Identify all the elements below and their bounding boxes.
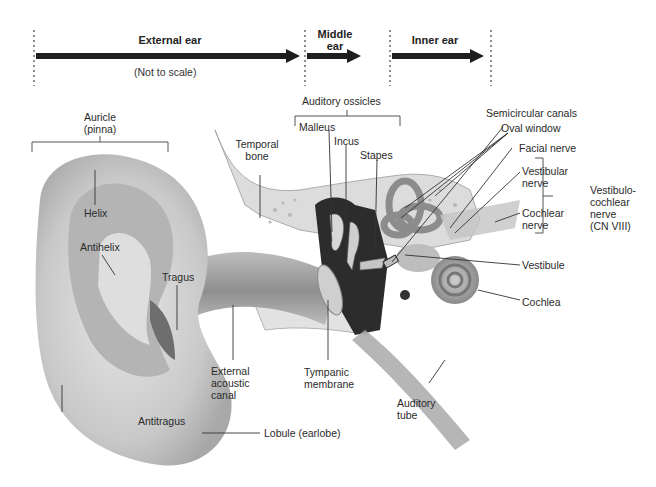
label-vcn-line4: (CN VIII)	[590, 220, 636, 232]
label-vestibular-line1: Vestibular	[522, 165, 568, 177]
label-cochlea: Cochlea	[522, 296, 561, 308]
label-tympanic-membrane: Tympanic membrane	[304, 366, 354, 390]
label-cochlear-nerve-line2: nerve	[522, 219, 564, 231]
label-vcn-line3: nerve	[590, 208, 636, 220]
label-eac-line1: External	[211, 365, 250, 377]
label-helix: Helix	[84, 207, 107, 219]
label-auditory-tube-line2: tube	[397, 409, 436, 421]
label-temporal-line1: Temporal	[232, 138, 282, 150]
scale-note: (Not to scale)	[134, 66, 196, 78]
label-stapes: Stapes	[360, 149, 393, 161]
label-antihelix: Antihelix	[80, 241, 120, 253]
label-antitragus: Antitragus	[138, 415, 185, 427]
region-middle-ear-line2: ear	[315, 40, 355, 53]
label-vcn-line1: Vestibulo-	[590, 184, 636, 196]
label-external-acoustic-canal: External acoustic canal	[211, 365, 250, 401]
label-temporal-bone: Temporal bone	[232, 138, 282, 162]
label-auricle-line2: (pinna)	[75, 123, 125, 135]
label-facial-nerve: Facial nerve	[519, 142, 576, 154]
label-auricle: Auricle (pinna)	[75, 111, 125, 135]
label-eac-line3: canal	[211, 389, 250, 401]
label-tragus: Tragus	[162, 271, 194, 283]
label-auditory-tube: Auditory tube	[397, 397, 436, 421]
label-vestibular-line2: nerve	[522, 177, 568, 189]
label-tympanic-line1: Tympanic	[304, 366, 354, 378]
label-temporal-line2: bone	[232, 150, 282, 162]
label-incus: Incus	[334, 135, 359, 147]
label-vestibulocochlear-nerve: Vestibulo- cochlear nerve (CN VIII)	[590, 184, 636, 232]
label-auricle-line1: Auricle	[75, 111, 125, 123]
label-lobule: Lobule (earlobe)	[264, 427, 340, 439]
label-oval-window: Oval window	[501, 122, 561, 134]
label-auditory-ossicles: Auditory ossicles	[302, 95, 381, 107]
label-eac-line2: acoustic	[211, 377, 250, 389]
label-vestibular-nerve: Vestibular nerve	[522, 165, 568, 189]
label-tympanic-line2: membrane	[304, 378, 354, 390]
region-external-ear: External ear	[135, 34, 205, 47]
label-cochlear-nerve-line1: Cochlear	[522, 207, 564, 219]
label-auditory-tube-line1: Auditory	[397, 397, 436, 409]
label-malleus: Malleus	[299, 121, 335, 133]
label-vestibule: Vestibule	[522, 259, 565, 271]
label-vcn-line2: cochlear	[590, 196, 636, 208]
region-inner-ear: Inner ear	[400, 34, 470, 47]
label-semicircular-canals: Semicircular canals	[486, 107, 577, 119]
label-cochlear-nerve: Cochlear nerve	[522, 207, 564, 231]
region-arrows	[36, 49, 484, 63]
